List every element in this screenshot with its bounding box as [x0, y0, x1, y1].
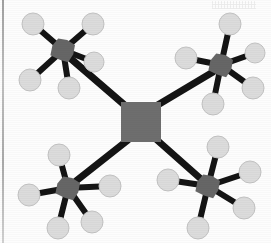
bond-center-to-bottom-left [76, 140, 128, 181]
molecular-network-diagram [0, 0, 271, 243]
satellite-tl-2 [82, 13, 104, 35]
satellite-br-1 [207, 136, 229, 158]
satellite-tl-1 [22, 13, 44, 35]
satellite-tr-2 [175, 47, 197, 69]
satellite-bl-4 [47, 217, 69, 239]
center-core [121, 102, 161, 142]
satellite-tl-5 [58, 77, 80, 99]
satellite-br-2 [157, 169, 179, 191]
satellite-tr-5 [202, 93, 224, 115]
satellite-bl-2 [18, 184, 40, 206]
diagram-canvas [0, 0, 271, 243]
satellite-br-4 [233, 197, 255, 219]
satellite-bl-3 [99, 175, 121, 197]
satellite-bl-5 [81, 211, 103, 233]
satellite-tl-3 [84, 52, 104, 72]
satellite-tl-4 [19, 69, 41, 91]
satellite-tr-1 [219, 13, 241, 35]
center-node-layer [121, 102, 161, 142]
satellite-tr-4 [242, 77, 264, 99]
satellite-br-3 [239, 161, 261, 183]
satellite-bl-1 [48, 144, 70, 166]
satellite-tr-3 [245, 43, 265, 63]
satellite-br-5 [187, 217, 209, 239]
